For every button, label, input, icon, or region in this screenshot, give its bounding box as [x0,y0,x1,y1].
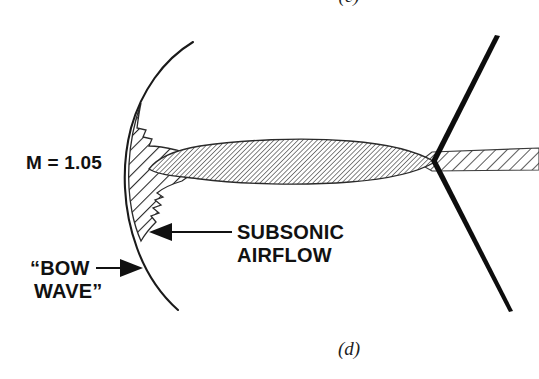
bow-wave-label-line1: “BOW [30,257,90,279]
bow-wave-label-line2: WAVE” [34,280,102,302]
subsonic-airflow-label-line2: AIRFLOW [237,244,332,266]
figure-background [0,0,539,379]
subsonic-airflow-label-line1: SUBSONIC [237,221,344,243]
figure-caption-above-partial: (c) [338,0,359,7]
figure-caption: (d) [338,338,360,360]
mach-number-label: M = 1.05 [26,152,102,173]
figure-container: SUBSONIC AIRFLOW “BOW WAVE” M = 1.05 (d)… [0,0,539,379]
transonic-airflow-diagram: SUBSONIC AIRFLOW “BOW WAVE” M = 1.05 (d)… [0,0,539,379]
